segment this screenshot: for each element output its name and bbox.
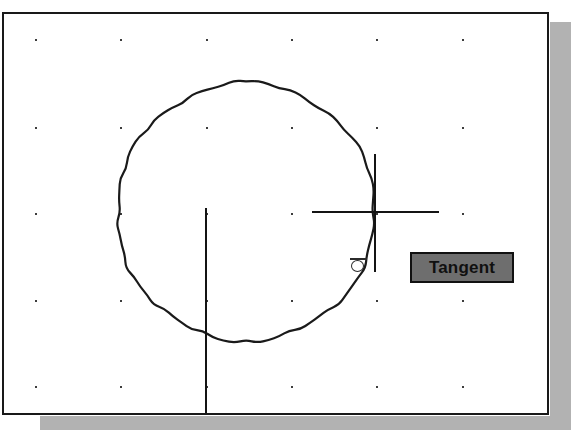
grid-dot xyxy=(462,386,464,388)
grid-dot xyxy=(35,386,37,388)
grid-dot xyxy=(462,213,464,215)
grid-dot xyxy=(547,39,549,41)
grid-dot xyxy=(462,39,464,41)
grid-dot xyxy=(120,300,122,302)
grid-dot xyxy=(206,39,208,41)
vertical-construction-line[interactable] xyxy=(205,208,207,415)
grid-dot xyxy=(376,386,378,388)
osnap-tooltip-label: Tangent xyxy=(429,259,495,276)
grid-dot xyxy=(547,300,549,302)
grid-dot xyxy=(376,213,378,215)
grid-dot xyxy=(547,386,549,388)
grid-dot xyxy=(120,213,122,215)
grid-dot xyxy=(206,127,208,129)
window-shadow-bottom xyxy=(40,416,571,430)
grid-dot xyxy=(462,127,464,129)
tangent-osnap-icon xyxy=(350,253,372,275)
grid-dot xyxy=(120,127,122,129)
grid-dot xyxy=(547,127,549,129)
grid-dot xyxy=(35,39,37,41)
grid-dot xyxy=(291,127,293,129)
crosshair-vertical xyxy=(374,154,376,272)
circle-entity-layer xyxy=(4,14,549,415)
osnap-tooltip: Tangent xyxy=(410,252,514,283)
window-shadow-right xyxy=(550,22,571,430)
grid-dot xyxy=(462,300,464,302)
grid-dot xyxy=(291,300,293,302)
grid-dot xyxy=(35,213,37,215)
grid-dot xyxy=(291,39,293,41)
grid-dot xyxy=(291,213,293,215)
grid-dot xyxy=(547,213,549,215)
grid-dot xyxy=(120,39,122,41)
grid-dot xyxy=(376,39,378,41)
drawing-canvas[interactable]: Tangent xyxy=(2,12,549,415)
grid-dot xyxy=(376,300,378,302)
grid-dot xyxy=(376,127,378,129)
grid-dot xyxy=(35,127,37,129)
screen: Tangent xyxy=(0,0,571,430)
grid-dot xyxy=(291,386,293,388)
tangent-circle-icon xyxy=(351,260,364,272)
grid-dot xyxy=(35,300,37,302)
grid-dot xyxy=(120,386,122,388)
